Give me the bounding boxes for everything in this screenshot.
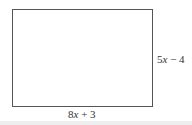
rectangle-shape — [12, 9, 153, 107]
bottom-side-label: 8x + 3 — [68, 109, 96, 120]
right-side-label: 5x − 4 — [157, 54, 185, 65]
right-rest: − 4 — [167, 53, 184, 65]
bottom-rest: + 3 — [78, 108, 95, 120]
bottom-divider-band — [0, 121, 192, 125]
